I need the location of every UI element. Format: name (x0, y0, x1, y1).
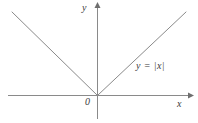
origin-label: 0 (85, 97, 90, 107)
graph-canvas (0, 0, 198, 123)
plot-background (0, 0, 198, 123)
y-axis-label: y (82, 3, 86, 13)
curve-equation-label: y = |x| (136, 61, 165, 71)
x-axis-label: x (177, 99, 181, 109)
figure-container: y x 0 y = |x| (0, 0, 198, 123)
